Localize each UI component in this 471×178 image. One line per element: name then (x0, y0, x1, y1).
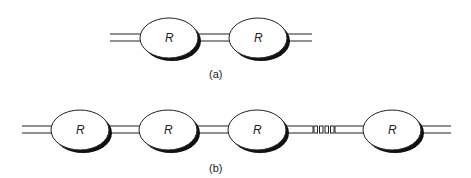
resonator-label: R (253, 123, 262, 137)
ellipsis-segment (314, 126, 318, 133)
caption-b: (b) (209, 162, 222, 174)
ellipsis-segment (331, 126, 335, 133)
caption-a: (a) (209, 68, 222, 80)
resonator-chain-diagram: RR (a) RRRR (b) (0, 0, 471, 178)
diagram-part-b: RRRR (22, 110, 451, 153)
resonator-label: R (165, 31, 174, 45)
resonator-label: R (164, 123, 173, 137)
diagram-part-a: RR (110, 18, 312, 61)
resonator-label: R (76, 123, 85, 137)
ellipsis-segment (320, 126, 324, 133)
resonator-label: R (254, 31, 263, 45)
resonator-label: R (388, 123, 397, 137)
ellipsis-segment (325, 126, 329, 133)
